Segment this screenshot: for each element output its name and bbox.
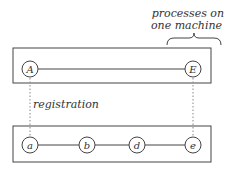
svg-text:E: E xyxy=(188,64,197,75)
bottom-machine-box xyxy=(13,126,211,162)
svg-text:e: e xyxy=(190,140,196,151)
node-a: a xyxy=(22,137,38,153)
diagram: processes on one machine A E registratio… xyxy=(0,0,235,170)
registration-label: registration xyxy=(33,98,99,111)
svg-text:b: b xyxy=(84,140,90,151)
brace-icon xyxy=(167,33,221,45)
node-E: E xyxy=(185,61,201,77)
top-machine-box xyxy=(13,48,211,83)
node-e: e xyxy=(185,137,201,153)
svg-text:A: A xyxy=(25,64,33,75)
svg-text:a: a xyxy=(27,140,33,151)
node-A: A xyxy=(22,61,38,77)
svg-text:d: d xyxy=(134,140,140,151)
node-d: d xyxy=(129,137,145,153)
annotation-line2: one machine xyxy=(151,19,223,32)
node-b: b xyxy=(79,137,95,153)
